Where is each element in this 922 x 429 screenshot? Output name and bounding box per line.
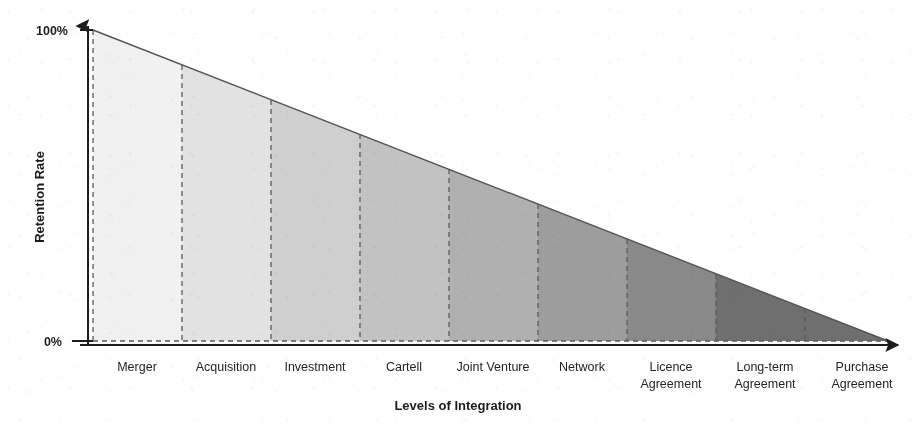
x-axis-category-label-purchase-agreement-line2: Agreement xyxy=(831,377,893,391)
x-axis-category-label-licence-agreement-line1: Licence xyxy=(649,360,692,374)
x-axis-title: Levels of Integration xyxy=(394,398,521,413)
x-axis-category-label-investment: Investment xyxy=(284,360,346,374)
triangle-band-acquisition xyxy=(182,20,271,345)
x-axis-category-label-licence-agreement-line2: Agreement xyxy=(640,377,702,391)
x-axis-category-label-group: Merger Acquisition Investment Cartell Jo… xyxy=(117,360,893,391)
x-axis-category-label-long-term-agreement-line1: Long-term xyxy=(737,360,794,374)
triangle-band-purchase-agreement xyxy=(805,20,895,345)
x-axis-category-label-cartell: Cartell xyxy=(386,360,422,374)
x-axis-category-label-network: Network xyxy=(559,360,606,374)
triangle-band-long-term-agreement xyxy=(716,20,805,345)
retention-rate-integration-chart: 100% 0% Retention Rate Merger Acquisitio… xyxy=(0,0,922,429)
triangle-band-joint-venture xyxy=(449,20,538,345)
triangle-band-merger xyxy=(93,20,182,345)
triangle-band-network xyxy=(538,20,627,345)
x-axis-category-label-acquisition: Acquisition xyxy=(196,360,256,374)
y-axis-title: Retention Rate xyxy=(32,151,47,243)
triangle-band-cartell xyxy=(360,20,449,345)
chart-page: 100% 0% Retention Rate Merger Acquisitio… xyxy=(0,0,922,429)
triangle-band-licence-agreement xyxy=(627,20,716,345)
x-axis-category-label-purchase-agreement-line1: Purchase xyxy=(836,360,889,374)
x-axis-category-label-merger: Merger xyxy=(117,360,157,374)
x-axis-category-label-joint-venture: Joint Venture xyxy=(457,360,530,374)
y-axis-tick-label-0: 0% xyxy=(44,335,62,349)
y-axis-tick-label-100: 100% xyxy=(36,24,68,38)
triangle-band-investment xyxy=(271,20,360,345)
x-axis-category-label-long-term-agreement-line2: Agreement xyxy=(734,377,796,391)
